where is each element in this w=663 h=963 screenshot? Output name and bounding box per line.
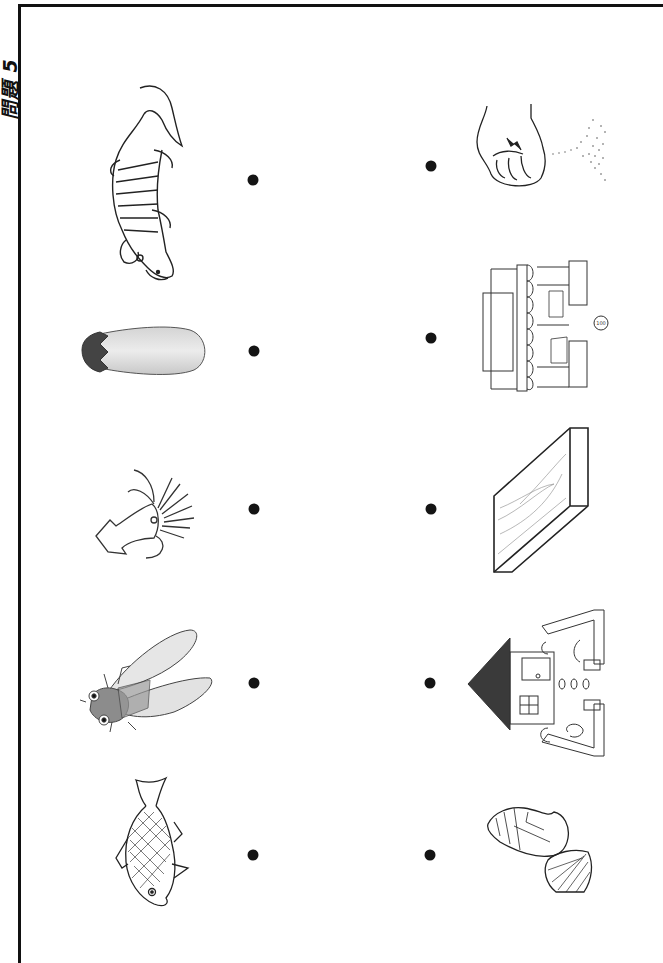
squid-icon	[88, 462, 203, 562]
fish-icon	[108, 778, 190, 910]
right-dot-5[interactable]	[425, 850, 436, 861]
seashells-icon	[484, 800, 594, 895]
wooden-board-icon	[490, 424, 590, 574]
coin-label: 100	[596, 320, 606, 326]
left-dot-2[interactable]	[249, 346, 260, 357]
left-dot-4[interactable]	[249, 678, 260, 689]
right-dot-1[interactable]	[426, 161, 437, 172]
left-dot-1[interactable]	[248, 175, 259, 186]
question-title: 問題 5	[0, 0, 20, 120]
crocodile-icon	[100, 80, 180, 285]
left-dot-5[interactable]	[248, 850, 259, 861]
shop-icon: 100	[473, 255, 613, 395]
left-dot-3[interactable]	[249, 504, 260, 515]
right-dot-2[interactable]	[426, 333, 437, 344]
right-dot-3[interactable]	[426, 504, 437, 515]
cicada-icon	[78, 622, 216, 734]
eggplant-icon	[78, 322, 210, 380]
house-garden-icon	[466, 600, 608, 768]
right-dot-4[interactable]	[425, 678, 436, 689]
worksheet-page: 問題 5	[0, 0, 663, 963]
hand-sand-icon	[473, 98, 613, 193]
